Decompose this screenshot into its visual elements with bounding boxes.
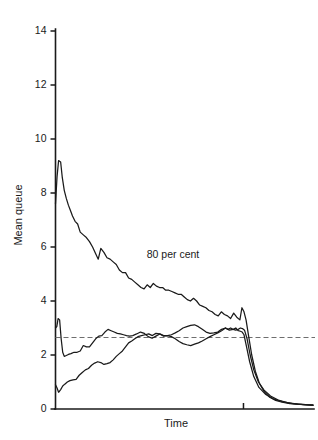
series-line-1: [56, 319, 314, 406]
y-tick-label-4: 4: [41, 294, 47, 306]
data-series-group: [56, 161, 314, 406]
y-tick-label-14: 14: [35, 24, 47, 36]
y-tick-label-12: 12: [35, 78, 47, 90]
x-axis-title: Time: [164, 417, 188, 429]
y-axis-title: Mean queue: [12, 184, 24, 245]
y-tick-label-6: 6: [41, 240, 47, 252]
series-line-0: [56, 161, 314, 405]
y-tick-label-0: 0: [41, 402, 47, 414]
y-tick-label-2: 2: [41, 348, 47, 360]
series-line-2: [56, 328, 314, 405]
y-axis-tick-labels: 02468101214: [35, 24, 47, 414]
chart-figure: 02468101214 80 per cent Time Mean queue: [0, 0, 318, 440]
mean-queue-line-chart: 02468101214 80 per cent Time Mean queue: [0, 0, 318, 440]
annotation-80-per-cent: 80 per cent: [147, 248, 200, 260]
y-tick-label-8: 8: [41, 186, 47, 198]
y-tick-label-10: 10: [35, 132, 47, 144]
